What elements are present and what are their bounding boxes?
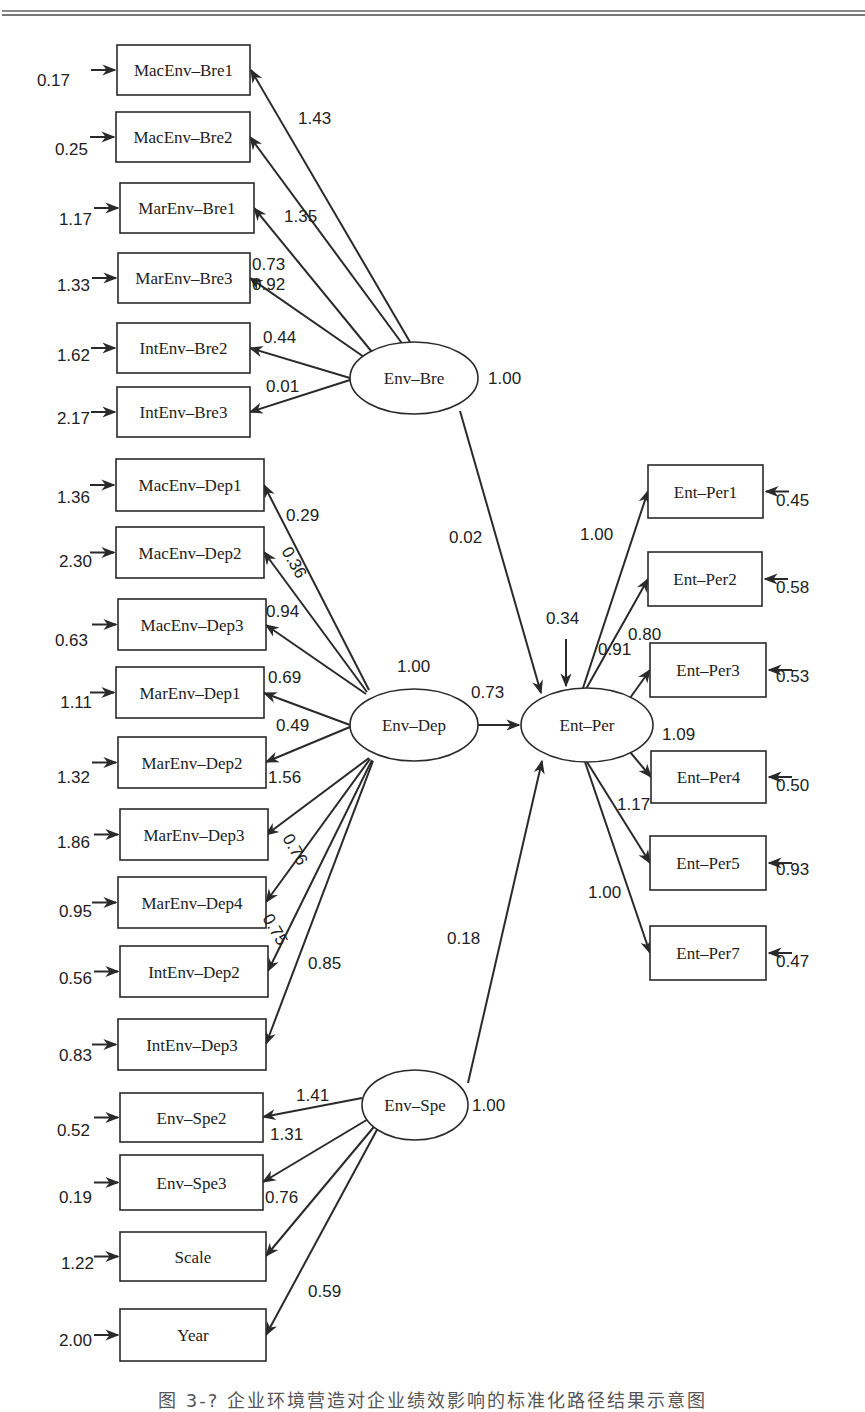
indicator-label: MarEnv–Dep2	[141, 754, 242, 773]
latent-variance: 1.00	[472, 1096, 505, 1115]
indicator-label: MacEnv–Dep2	[139, 544, 242, 563]
loading-coefficient: 1.31	[270, 1125, 303, 1144]
error-variance: 0.47	[776, 952, 809, 971]
loading-coefficient: 0.76	[265, 1188, 298, 1207]
latent-label: Ent–Per	[560, 716, 615, 735]
structural-coef-spe: 0.18	[447, 929, 480, 948]
loading-coefficient: 1.43	[298, 109, 331, 128]
indicator-label: MarEnv–Dep1	[139, 684, 240, 703]
path-nodes: MacEnv–Bre1MacEnv–Bre2MarEnv–Bre1MarEnv–…	[116, 45, 766, 1361]
indicator-label: Ent–Per1	[674, 483, 737, 502]
loading-coefficient: 0.49	[276, 716, 309, 735]
indicator-label: IntEnv–Bre2	[140, 339, 228, 358]
loading-coefficient: 1.35	[284, 207, 317, 226]
loading-coefficient: 0.85	[308, 954, 341, 973]
figure-caption: 图 3-? 企业环境营造对企业绩效影响的标准化路径结果示意图	[0, 1386, 865, 1412]
error-variance: 1.62	[57, 346, 90, 365]
error-variance: 0.63	[55, 631, 88, 650]
loading-coefficient: 0.75	[259, 911, 292, 949]
loading-coefficient: 1.56	[268, 768, 301, 787]
error-variance: 2.17	[57, 409, 90, 428]
error-variance: 0.19	[59, 1188, 92, 1207]
error-variance: 1.17	[59, 210, 92, 229]
loading-coefficient: 0.69	[268, 668, 301, 687]
error-variance: 0.58	[776, 578, 809, 597]
indicator-label: IntEnv–Dep2	[148, 963, 240, 982]
structural-coef-dep: 0.73	[471, 683, 504, 702]
loading-coefficient: 0.73	[252, 255, 285, 274]
error-variance: 1.11	[60, 693, 92, 712]
indicator-label: MarEnv–Bre3	[135, 269, 232, 288]
latent-label: Env–Spe	[384, 1096, 445, 1115]
indicator-label: Scale	[175, 1248, 212, 1267]
loading-coefficient: 1.17	[617, 795, 650, 814]
indicator-label: MarEnv–Dep3	[143, 826, 244, 845]
indicator-label: Year	[177, 1326, 209, 1345]
loading-coefficient: 1.00	[588, 883, 621, 902]
error-variance: 1.86	[57, 833, 90, 852]
loading-path	[630, 670, 650, 698]
loading-coefficient: 1.41	[296, 1086, 329, 1105]
loading-coefficient: 0.92	[252, 275, 285, 294]
indicator-label: MacEnv–Dep3	[141, 616, 244, 635]
indicator-label: MacEnv–Dep1	[139, 476, 242, 495]
error-variance: 0.17	[37, 71, 70, 90]
indicator-label: Env–Spe2	[157, 1109, 227, 1128]
error-variance: 1.22	[61, 1254, 94, 1273]
error-variance: 0.25	[55, 140, 88, 159]
indicator-label: MarEnv–Dep4	[141, 894, 243, 913]
loading-coefficient: 0.91	[598, 640, 631, 659]
latent-variance: 1.00	[397, 657, 430, 676]
loading-coefficient: 0.94	[266, 602, 299, 621]
error-variance: 0.93	[776, 860, 809, 879]
error-variance: 2.00	[59, 1331, 92, 1350]
loading-coefficient: 0.29	[286, 506, 319, 525]
loading-coefficient: 0.44	[263, 328, 296, 347]
loading-coefficient: 1.09	[662, 725, 695, 744]
loading-path	[630, 752, 651, 777]
latent-label: Env–Dep	[382, 716, 446, 735]
error-variance: 0.45	[776, 491, 809, 510]
loading-coefficient: 0.59	[308, 1282, 341, 1301]
indicator-label: MacEnv–Bre2	[133, 128, 232, 147]
indicator-label: MacEnv–Bre1	[134, 61, 233, 80]
error-variance: 2.30	[59, 552, 92, 571]
structural-path-spe	[468, 761, 542, 1083]
error-variance: 1.36	[57, 488, 90, 507]
error-variance: 1.32	[57, 768, 90, 787]
disturbance-value: 0.34	[546, 609, 579, 628]
loading-path	[250, 348, 350, 378]
loading-path	[250, 137, 404, 346]
loading-coefficient: 1.00	[580, 525, 613, 544]
loading-coefficient: 0.80	[628, 625, 661, 644]
error-variance: 0.95	[59, 902, 92, 921]
indicator-label: IntEnv–Dep3	[146, 1036, 238, 1055]
indicator-label: IntEnv–Bre3	[140, 403, 228, 422]
structural-path-bre	[460, 411, 541, 693]
latent-variance: 1.00	[488, 369, 521, 388]
error-variance: 0.50	[776, 776, 809, 795]
loading-path	[585, 762, 650, 953]
indicator-label: Ent–Per4	[677, 768, 741, 787]
error-variance: 1.33	[57, 276, 90, 295]
indicator-label: Env–Spe3	[157, 1174, 227, 1193]
indicator-label: Ent–Per2	[673, 570, 736, 589]
loading-path	[266, 761, 373, 1044]
indicator-label: Ent–Per7	[676, 944, 740, 963]
structural-coef-bre: 0.02	[449, 528, 482, 547]
error-variance: 0.83	[59, 1046, 92, 1065]
error-variance: 0.52	[57, 1121, 90, 1140]
loading-path	[250, 380, 350, 412]
indicator-label: MarEnv–Bre1	[138, 199, 235, 218]
error-variance: 0.53	[776, 667, 809, 686]
latent-label: Env–Bre	[384, 369, 444, 388]
indicator-label: Ent–Per5	[676, 854, 739, 873]
loading-path	[266, 1126, 379, 1335]
indicator-label: Ent–Per3	[676, 661, 739, 680]
loading-coefficient: 0.01	[266, 377, 299, 396]
error-variance: 0.56	[59, 969, 92, 988]
loading-coefficient: 0.76	[279, 831, 312, 869]
